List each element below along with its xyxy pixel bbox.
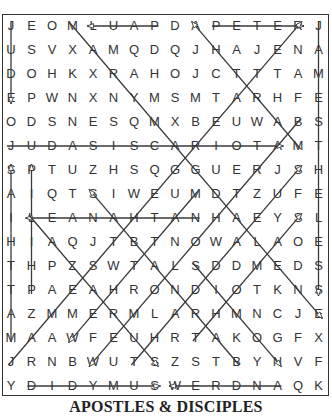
grid-letter[interactable]: A	[23, 329, 41, 347]
grid-letter[interactable]: N	[289, 281, 307, 299]
grid-letter[interactable]: T	[248, 137, 266, 155]
grid-letter[interactable]: O	[166, 65, 184, 83]
grid-letter[interactable]: S	[289, 209, 307, 227]
grid-letter[interactable]: W	[166, 377, 184, 395]
grid-letter[interactable]: M	[105, 41, 123, 59]
grid-letter[interactable]: J	[2, 17, 20, 35]
grid-letter[interactable]: W	[207, 233, 225, 251]
grid-letter[interactable]: B	[125, 233, 143, 251]
grid-letter[interactable]: R	[248, 89, 266, 107]
grid-letter[interactable]: J	[187, 41, 205, 59]
grid-letter[interactable]: G	[187, 161, 205, 179]
grid-letter[interactable]: T	[125, 353, 143, 371]
grid-letter[interactable]: C	[207, 65, 225, 83]
grid-letter[interactable]: E	[310, 185, 328, 203]
grid-letter[interactable]: E	[228, 161, 246, 179]
grid-letter[interactable]: S	[187, 353, 205, 371]
grid-letter[interactable]: U	[105, 353, 123, 371]
grid-letter[interactable]: E	[310, 305, 328, 323]
grid-letter[interactable]: S	[84, 257, 102, 275]
grid-letter[interactable]: H	[23, 257, 41, 275]
grid-letter[interactable]: P	[23, 161, 41, 179]
grid-letter[interactable]: A	[228, 41, 246, 59]
grid-letter[interactable]: U	[207, 161, 225, 179]
grid-letter[interactable]: V	[43, 41, 61, 59]
grid-letter[interactable]: K	[310, 377, 328, 395]
grid-letter[interactable]: J	[2, 137, 20, 155]
grid-letter[interactable]: R	[125, 281, 143, 299]
grid-letter[interactable]: J	[289, 305, 307, 323]
grid-letter[interactable]: A	[146, 257, 164, 275]
grid-letter[interactable]: H	[207, 41, 225, 59]
grid-letter[interactable]: E	[207, 113, 225, 131]
grid-letter[interactable]: S	[310, 281, 328, 299]
grid-letter[interactable]: Q	[125, 41, 143, 59]
grid-letter[interactable]: E	[105, 329, 123, 347]
grid-letter[interactable]: A	[289, 65, 307, 83]
grid-letter[interactable]: F	[289, 89, 307, 107]
grid-letter[interactable]: M	[43, 305, 61, 323]
grid-letter[interactable]: Y	[2, 377, 20, 395]
grid-letter[interactable]: Q	[43, 185, 61, 203]
grid-letter[interactable]: E	[2, 89, 20, 107]
grid-letter[interactable]: M	[248, 257, 266, 275]
grid-letter[interactable]: D	[166, 17, 184, 35]
grid-letter[interactable]: Z	[23, 305, 41, 323]
grid-letter[interactable]: V	[289, 353, 307, 371]
grid-letter[interactable]: W	[248, 113, 266, 131]
grid-letter[interactable]: G	[269, 329, 287, 347]
grid-letter[interactable]: N	[64, 89, 82, 107]
grid-letter[interactable]: L	[84, 17, 102, 35]
grid-letter[interactable]: A	[64, 209, 82, 227]
grid-letter[interactable]: S	[84, 185, 102, 203]
grid-letter[interactable]: A	[105, 209, 123, 227]
grid-letter[interactable]: I	[2, 209, 20, 227]
grid-letter[interactable]: N	[166, 233, 184, 251]
grid-letter[interactable]: A	[2, 185, 20, 203]
grid-letter[interactable]: I	[105, 137, 123, 155]
grid-letter[interactable]: I	[43, 377, 61, 395]
grid-letter[interactable]: R	[166, 329, 184, 347]
grid-letter[interactable]: J	[310, 17, 328, 35]
grid-letter[interactable]: O	[43, 17, 61, 35]
grid-letter[interactable]: A	[207, 329, 225, 347]
grid-letter[interactable]: T	[228, 65, 246, 83]
grid-letter[interactable]: X	[166, 113, 184, 131]
grid-letter[interactable]: S	[146, 353, 164, 371]
grid-letter[interactable]: E	[23, 17, 41, 35]
grid-letter[interactable]: M	[289, 137, 307, 155]
grid-letter[interactable]: E	[187, 377, 205, 395]
grid-letter[interactable]: A	[166, 209, 184, 227]
grid-letter[interactable]: O	[228, 281, 246, 299]
grid-letter[interactable]: E	[84, 113, 102, 131]
grid-letter[interactable]: A	[64, 137, 82, 155]
grid-letter[interactable]: J	[187, 65, 205, 83]
grid-letter[interactable]: Y	[125, 89, 143, 107]
grid-letter[interactable]: D	[228, 377, 246, 395]
grid-letter[interactable]: S	[146, 377, 164, 395]
grid-letter[interactable]: S	[105, 113, 123, 131]
grid-letter[interactable]: W	[84, 353, 102, 371]
grid-letter[interactable]: E	[310, 89, 328, 107]
grid-letter[interactable]: R	[248, 161, 266, 179]
grid-letter[interactable]: Q	[125, 113, 143, 131]
grid-letter[interactable]: U	[64, 161, 82, 179]
grid-letter[interactable]: B	[187, 113, 205, 131]
grid-letter[interactable]: E	[64, 281, 82, 299]
grid-letter[interactable]: A	[269, 113, 287, 131]
grid-letter[interactable]: W	[125, 185, 143, 203]
grid-letter[interactable]: T	[207, 353, 225, 371]
grid-letter[interactable]: H	[310, 161, 328, 179]
grid-letter[interactable]: Q	[289, 377, 307, 395]
grid-letter[interactable]: N	[248, 305, 266, 323]
grid-letter[interactable]: X	[84, 89, 102, 107]
grid-letter[interactable]: U	[228, 113, 246, 131]
grid-letter[interactable]: N	[64, 113, 82, 131]
grid-letter[interactable]: A	[125, 17, 143, 35]
grid-letter[interactable]: R	[105, 65, 123, 83]
grid-letter[interactable]: I	[23, 185, 41, 203]
grid-letter[interactable]: T	[2, 257, 20, 275]
grid-letter[interactable]: D	[43, 137, 61, 155]
grid-letter[interactable]: R	[289, 17, 307, 35]
grid-letter[interactable]: L	[146, 305, 164, 323]
